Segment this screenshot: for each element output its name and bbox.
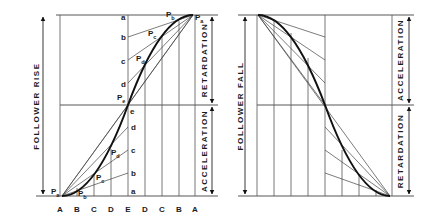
rise-diagram: FOLLOWER RISE RETARDATION ACCELERATION A…	[32, 10, 218, 214]
acceleration-label: ACCELERATION	[396, 19, 405, 101]
svg-text:Pc: Pc	[148, 29, 156, 40]
fall-diagram: FOLLOWER FALL ACCELERATION RETARDATION	[236, 15, 414, 196]
svg-text:a: a	[121, 13, 126, 22]
svg-text:Pd: Pd	[136, 54, 145, 65]
svg-text:D: D	[108, 205, 114, 214]
retardation-label: RETARDATION	[200, 23, 209, 98]
svg-text:C: C	[159, 205, 165, 214]
point-labels-top: Pa Pb Pc Pd Pe	[117, 10, 204, 104]
svg-text:e: e	[130, 107, 135, 116]
construction-rays-bottom	[325, 127, 390, 196]
svg-text:B: B	[176, 205, 182, 214]
division-labels-bottom: d c b a	[131, 123, 136, 196]
svg-text:d: d	[131, 123, 136, 132]
svg-text:B: B	[74, 205, 80, 214]
svg-text:Pd: Pd	[111, 148, 120, 159]
point-labels-bottom: Pa Pb Pc Pd	[51, 148, 120, 200]
svg-text:c: c	[121, 57, 126, 66]
svg-text:A: A	[57, 205, 63, 214]
svg-text:c: c	[131, 146, 136, 155]
bottom-labels: A B C D E D C B A	[57, 205, 198, 214]
svg-text:E: E	[125, 205, 131, 214]
construction-rays-top	[258, 15, 390, 196]
svg-text:a: a	[131, 187, 136, 196]
retardation-label: RETARDATION	[396, 114, 405, 189]
follower-rise-label: FOLLOWER RISE	[32, 62, 41, 149]
svg-text:A: A	[192, 205, 198, 214]
follower-fall-label: FOLLOWER FALL	[236, 62, 245, 151]
acceleration-label: ACCELERATION	[200, 110, 209, 192]
svg-text:Pe: Pe	[117, 93, 125, 104]
svg-text:d: d	[121, 80, 126, 89]
svg-text:C: C	[91, 205, 97, 214]
svg-text:b: b	[121, 33, 126, 42]
svg-text:b: b	[131, 169, 136, 178]
cam-displacement-diagram: FOLLOWER RISE RETARDATION ACCELERATION A…	[0, 0, 433, 220]
svg-text:D: D	[142, 205, 148, 214]
svg-text:Pb: Pb	[78, 189, 87, 200]
svg-text:Pb: Pb	[166, 10, 175, 21]
